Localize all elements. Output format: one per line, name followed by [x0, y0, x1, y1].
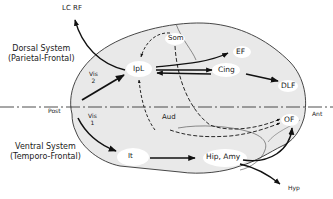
ventral-system-label: Ventral System (Temporo-Frontal)	[10, 142, 81, 162]
label-vis2-text: Vis	[89, 70, 98, 77]
label-vis2: Vis 2	[89, 70, 98, 84]
label-hyp: Hyp	[288, 185, 300, 191]
label-vis1-num: 1	[88, 119, 97, 126]
brain-outline	[71, 23, 306, 173]
ventral-system-subtitle: (Temporo-Frontal)	[10, 152, 81, 162]
dorsal-system-label: Dorsal System (Parietal-Frontal)	[8, 44, 75, 64]
label-hip-amy: Hip, Amy	[206, 153, 240, 161]
label-it: It	[128, 153, 133, 160]
dorsal-system-subtitle: (Parietal-Frontal)	[8, 54, 75, 64]
label-post: Post	[48, 108, 61, 114]
label-cing: Cing	[218, 66, 235, 74]
label-vis1: Vis 1	[88, 112, 97, 126]
label-lc-rf: LC RF	[62, 5, 82, 12]
label-vis2-num: 2	[89, 77, 98, 84]
edge-hipamy-hyp	[240, 164, 280, 184]
label-ant: Ant	[312, 111, 322, 117]
label-ef: EF	[236, 48, 245, 56]
it-region	[117, 148, 149, 166]
label-aud: Aud	[162, 114, 176, 121]
label-vis1-text: Vis	[88, 112, 97, 119]
label-ipl: IpL	[133, 65, 144, 73]
ventral-system-title: Ventral System	[10, 142, 81, 152]
label-dlf: DLF	[281, 82, 295, 90]
dorsal-system-title: Dorsal System	[8, 44, 75, 54]
brain-diagram-canvas	[0, 0, 333, 199]
label-of: OF	[284, 116, 294, 124]
label-som: Som	[168, 35, 184, 42]
